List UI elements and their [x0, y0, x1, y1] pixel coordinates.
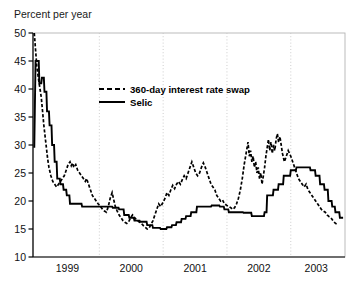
svg-text:2001: 2001	[183, 262, 207, 274]
svg-text:10: 10	[14, 251, 26, 263]
legend-label: 360-day interest rate swap	[130, 84, 250, 95]
data-series	[34, 33, 343, 229]
svg-text:40: 40	[14, 83, 26, 95]
chart-plot-area: 101520253035404550 19992000200120022003 …	[0, 0, 358, 291]
svg-text:50: 50	[14, 27, 26, 39]
svg-text:30: 30	[14, 139, 26, 151]
legend-label: Selic	[130, 97, 153, 108]
svg-text:2000: 2000	[120, 262, 144, 274]
y-axis-ticks: 101520253035404550	[14, 27, 33, 263]
series-line	[34, 33, 338, 229]
chart-figure: Percent per year 101520253035404550 1999…	[0, 0, 358, 291]
svg-text:15: 15	[14, 223, 26, 235]
svg-text:35: 35	[14, 111, 26, 123]
grid-lines	[99, 33, 290, 257]
plot-frame	[33, 33, 345, 257]
svg-text:25: 25	[14, 167, 26, 179]
x-axis-ticks: 19992000200120022003	[33, 257, 345, 274]
svg-text:45: 45	[14, 55, 26, 67]
svg-text:20: 20	[14, 195, 26, 207]
svg-text:2003: 2003	[305, 262, 329, 274]
svg-text:1999: 1999	[56, 262, 80, 274]
svg-text:2002: 2002	[247, 262, 271, 274]
chart-legend: 360-day interest rate swapSelic	[99, 84, 250, 108]
